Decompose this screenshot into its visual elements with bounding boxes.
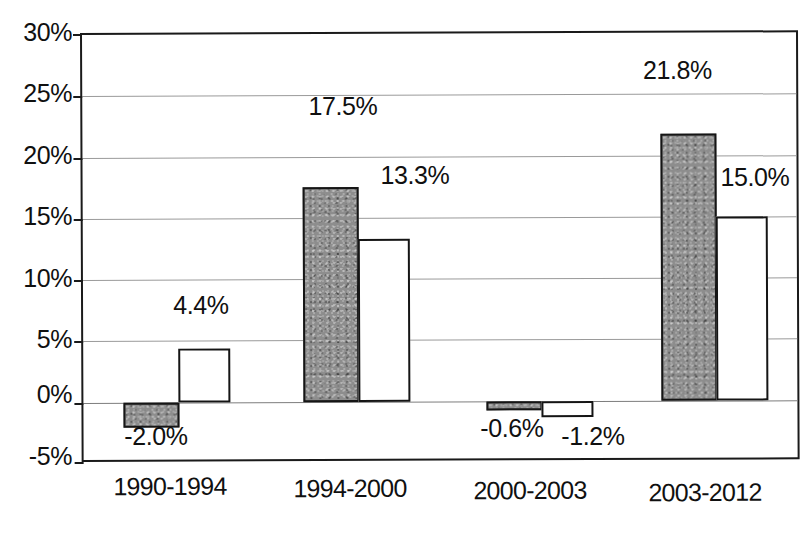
bar-group1-series2 [178, 348, 230, 402]
y-tick-5 [74, 341, 83, 343]
y-axis-label-10: 10% [0, 266, 72, 291]
bar-group2-series1 [303, 187, 360, 402]
value-label-group1-series2: 4.4% [155, 293, 247, 318]
y-tick-15 [74, 219, 83, 221]
y-tick-neg5 [75, 462, 84, 464]
bar-group3-series2 [541, 401, 593, 417]
value-label-group2-series2: 13.3% [360, 163, 470, 188]
x-axis-label-2000-2003: 2000-2003 [450, 478, 610, 504]
value-label-group2-series1: 17.5% [288, 94, 398, 119]
y-axis-label-15: 15% [0, 204, 72, 229]
y-tick-25 [73, 96, 82, 98]
value-label-group3-series2: -1.2% [543, 424, 643, 449]
x-axis-label-1990-1994: 1990-1994 [90, 474, 250, 500]
y-axis-label-20: 20% [0, 143, 72, 168]
bar-group3-series1 [486, 401, 542, 410]
y-tick-30 [73, 34, 82, 36]
y-axis-label-30: 30% [0, 20, 72, 45]
y-tick-0 [74, 403, 83, 405]
value-label-group4-series1: 21.8% [620, 58, 735, 83]
plot-area [80, 30, 800, 462]
gridline-25 [82, 93, 796, 97]
value-label-group4-series2: 15.0% [705, 165, 805, 190]
y-axis-label-5: 5% [0, 327, 72, 352]
y-axis-label-25: 25% [0, 81, 72, 106]
y-tick-20 [73, 158, 82, 160]
bar-group4-series2 [716, 216, 769, 400]
value-label-group1-series1: -2.0% [110, 424, 202, 449]
bar-chart: 30% 25% 20% 15% 10% 5% 0% -5% [0, 0, 807, 533]
x-axis-label-2003-2012: 2003-2012 [625, 480, 785, 506]
y-tick-10 [74, 280, 83, 282]
bar-group2-series2 [358, 239, 411, 402]
x-axis-label-1994-2000: 1994-2000 [270, 476, 430, 502]
y-axis-label-neg5: -5% [0, 444, 72, 469]
y-axis-label-0: 0% [0, 382, 72, 407]
